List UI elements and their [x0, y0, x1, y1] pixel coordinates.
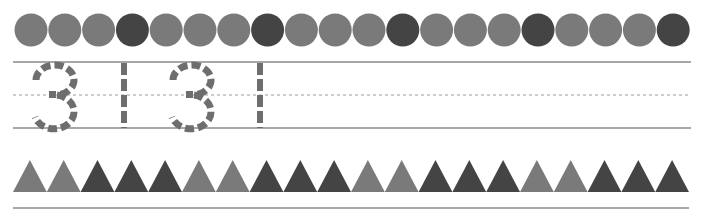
light-circle [623, 14, 656, 47]
dark-circle [251, 14, 284, 47]
light-circle [353, 14, 386, 47]
dark-triangle [250, 160, 284, 192]
trace-digit-three[interactable] [35, 65, 74, 129]
dark-triangle [148, 160, 182, 192]
dark-triangle [588, 160, 622, 192]
light-circle [82, 14, 115, 47]
light-circle [217, 14, 250, 47]
light-circle [420, 14, 453, 47]
light-triangle [554, 160, 588, 192]
dark-triangle [486, 160, 520, 192]
light-circle [48, 14, 81, 47]
dark-triangle [419, 160, 453, 192]
light-triangle [13, 160, 47, 192]
circle-pattern [0, 0, 708, 60]
light-circle [488, 14, 521, 47]
light-triangle [182, 160, 216, 192]
light-circle [555, 14, 588, 47]
light-triangle [520, 160, 554, 192]
dark-triangle [452, 160, 486, 192]
dark-circle [657, 14, 690, 47]
triangle-pattern-row [0, 145, 708, 220]
number-tracing-area [0, 55, 708, 135]
light-circle [15, 14, 48, 47]
dark-triangle [317, 160, 351, 192]
light-triangle [216, 160, 250, 192]
dark-triangle [655, 160, 689, 192]
tracing-row [0, 55, 708, 135]
light-circle [150, 14, 183, 47]
light-circle [589, 14, 622, 47]
light-triangle [385, 160, 419, 192]
dark-triangle [81, 160, 115, 192]
dark-circle [116, 14, 149, 47]
dark-triangle [114, 160, 148, 192]
light-circle [285, 14, 318, 47]
circle-pattern-row [0, 0, 708, 60]
dark-triangle [283, 160, 317, 192]
trace-digit-three[interactable] [172, 65, 211, 129]
light-triangle [47, 160, 81, 192]
dark-triangle [621, 160, 655, 192]
light-circle [454, 14, 487, 47]
dark-circle [522, 14, 555, 47]
light-circle [184, 14, 217, 47]
light-circle [319, 14, 352, 47]
dark-circle [386, 14, 419, 47]
light-triangle [351, 160, 385, 192]
triangle-pattern [0, 145, 708, 220]
